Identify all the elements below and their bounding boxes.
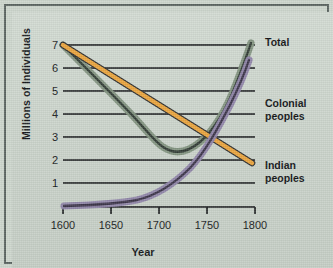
y-tick-4: 4 — [42, 108, 58, 120]
y-tick-2: 2 — [42, 154, 58, 166]
x-tick-1650: 1650 — [91, 219, 131, 231]
x-tick-1750: 1750 — [187, 219, 227, 231]
y-tick-1: 1 — [42, 177, 58, 189]
x-tick-1800: 1800 — [235, 219, 275, 231]
series-label-indian-peoples: Indian peoples — [265, 159, 305, 184]
x-axis-label: Year — [83, 246, 203, 258]
y-tick-3: 3 — [42, 131, 58, 143]
x-tick-1700: 1700 — [139, 219, 179, 231]
series-label-total: Total — [265, 36, 289, 49]
y-tick-7: 7 — [42, 39, 58, 51]
y-tick-5: 5 — [42, 85, 58, 97]
series-label-colonial-peoples: Colonial peoples — [265, 97, 306, 122]
y-tick-6: 6 — [42, 62, 58, 74]
y-axis-label: Millions of Individuals — [20, 0, 32, 174]
series-colonial-peoples — [64, 60, 249, 206]
x-tick-1600: 1600 — [43, 219, 83, 231]
figure-container: Millions of Individuals 7 6 5 4 3 2 1 16… — [0, 0, 333, 268]
